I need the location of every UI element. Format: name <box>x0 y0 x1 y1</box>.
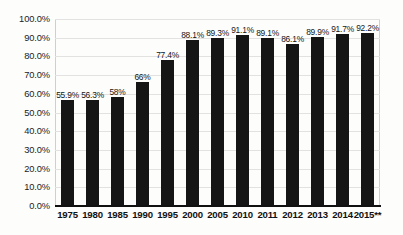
y-axis-tick-label: 50.0% <box>0 108 50 118</box>
bar-chart: 0.0%10.0%20.0%30.0%40.0%50.0%60.0%70.0%8… <box>0 0 403 235</box>
bar <box>136 82 149 205</box>
y-axis-tick-label: 90.0% <box>0 33 50 43</box>
x-axis-line <box>55 205 381 207</box>
gridline <box>55 19 380 20</box>
bar-value-label: 66% <box>125 73 160 82</box>
bar <box>61 100 74 205</box>
bar <box>286 44 299 205</box>
y-axis-tick-label: 80.0% <box>0 51 50 61</box>
y-axis-tick-label: 70.0% <box>0 70 50 80</box>
y-axis-tick-label: 60.0% <box>0 89 50 99</box>
y-axis-tick-label: 30.0% <box>0 145 50 155</box>
bar-value-label: 58% <box>100 88 135 97</box>
bar <box>86 100 99 205</box>
x-axis: 1975198019851990199520002005201020112012… <box>55 209 381 225</box>
bar <box>161 60 174 205</box>
plot-area: 55.9%56.3%58%66%77.4%88.1%89.3%91.1%89.1… <box>55 19 380 206</box>
bar <box>361 33 374 205</box>
bar <box>186 40 199 205</box>
bar-value-label: 77.4% <box>150 51 185 60</box>
bar-value-label: 92.2% <box>350 24 385 33</box>
bar <box>311 37 324 205</box>
bar <box>336 34 349 205</box>
bar <box>236 35 249 205</box>
y-axis: 0.0%10.0%20.0%30.0%40.0%50.0%60.0%70.0%8… <box>0 0 52 235</box>
y-axis-tick-label: 10.0% <box>0 182 50 192</box>
x-axis-tick-label: 2015** <box>349 209 386 220</box>
bar <box>211 38 224 205</box>
bar <box>261 38 274 205</box>
y-axis-tick-label: 40.0% <box>0 126 50 136</box>
y-axis-tick-label: 20.0% <box>0 164 50 174</box>
y-axis-tick-label: 0.0% <box>0 201 50 211</box>
bar <box>111 97 124 205</box>
y-axis-tick-label: 100.0% <box>0 14 50 24</box>
